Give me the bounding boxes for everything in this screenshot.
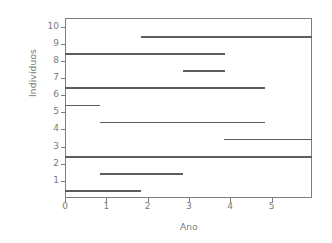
y-axis-title: Indivíduos xyxy=(28,28,38,118)
y-tick-label: 8 xyxy=(43,55,59,65)
y-tick-mark xyxy=(61,44,65,45)
y-tick-mark xyxy=(61,112,65,113)
x-axis-title: Ano xyxy=(65,222,313,232)
y-tick-mark xyxy=(61,78,65,79)
chart-container: Indivíduos 12345678910 012345 Ano xyxy=(0,0,332,243)
lifeline-segment xyxy=(65,156,312,158)
plot-area xyxy=(65,18,312,198)
y-tick-label: 3 xyxy=(43,141,59,151)
lifeline-segment xyxy=(100,173,183,175)
x-tick-label: 0 xyxy=(58,201,72,211)
y-tick-label: 9 xyxy=(43,38,59,48)
y-tick-mark xyxy=(61,164,65,165)
y-tick-label: 10 xyxy=(43,21,59,31)
lifeline-segment xyxy=(141,36,312,38)
y-tick-mark xyxy=(61,61,65,62)
x-tick-label: 3 xyxy=(182,201,196,211)
x-tick-mark xyxy=(106,198,107,202)
y-tick-label: 4 xyxy=(43,123,59,133)
lifeline-segment xyxy=(65,53,225,55)
y-tick-mark xyxy=(61,129,65,130)
x-tick-mark xyxy=(65,198,66,202)
x-tick-mark xyxy=(272,198,273,202)
y-tick-label: 1 xyxy=(43,175,59,185)
lifeline-segment xyxy=(224,139,312,141)
x-tick-label: 4 xyxy=(223,201,237,211)
x-tick-mark xyxy=(148,198,149,202)
lifeline-segment xyxy=(100,122,265,124)
x-tick-label: 1 xyxy=(99,201,113,211)
y-tick-mark xyxy=(61,181,65,182)
lifeline-segment xyxy=(65,190,141,192)
y-tick-label: 2 xyxy=(43,158,59,168)
y-tick-label: 7 xyxy=(43,72,59,82)
y-tick-mark xyxy=(61,95,65,96)
y-tick-mark xyxy=(61,147,65,148)
lifeline-segment xyxy=(183,70,226,72)
y-tick-label: 6 xyxy=(43,89,59,99)
lifeline-segment xyxy=(65,105,100,107)
x-tick-mark xyxy=(189,198,190,202)
y-tick-mark xyxy=(61,27,65,28)
lifeline-segment xyxy=(65,87,265,89)
y-tick-label: 5 xyxy=(43,106,59,116)
x-tick-label: 2 xyxy=(141,201,155,211)
x-tick-label: 5 xyxy=(265,201,279,211)
x-tick-mark xyxy=(230,198,231,202)
